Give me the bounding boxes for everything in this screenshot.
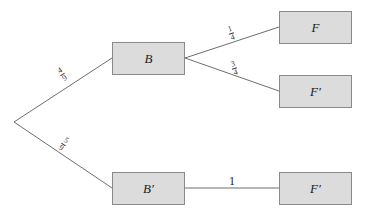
prob-Bprime-Fprime: 1 (229, 174, 235, 189)
edge-root-Bprime (14, 122, 112, 188)
node-F-prime-upper-label: F′ (310, 84, 321, 100)
node-B: B (112, 42, 185, 75)
node-F-prime-lower: F′ (279, 172, 352, 205)
edge-root-B (14, 58, 112, 122)
node-B-prime: B′ (112, 172, 185, 205)
node-F-prime-upper: F′ (279, 75, 352, 108)
node-F-label: F (312, 20, 320, 36)
node-B-label: B (145, 51, 153, 67)
node-B-prime-label: B′ (143, 181, 154, 197)
node-F-prime-lower-label: F′ (310, 181, 321, 197)
node-F: F (279, 11, 352, 44)
